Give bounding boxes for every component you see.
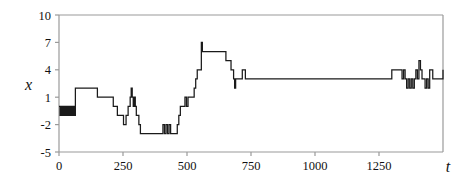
x-tick-label-1250: 1250: [367, 159, 392, 173]
series-line: [59, 42, 443, 133]
x-tick-label-750: 750: [242, 159, 261, 173]
x-tick-label-0: 0: [56, 159, 62, 173]
x-axis-ticks: [59, 152, 379, 156]
x-axis-title: t: [446, 158, 451, 175]
x-tick-label-500: 500: [178, 159, 197, 173]
y-tick-label-10: 10: [39, 9, 52, 23]
chart-figure: -5-214710 025050075010001250 x t: [0, 0, 461, 184]
y-tick-label--5: -5: [41, 146, 51, 160]
y-tick-label-7: 7: [45, 36, 51, 50]
step-line-chart: -5-214710 025050075010001250 x t: [0, 0, 461, 184]
y-tick-label--2: -2: [41, 118, 51, 132]
y-tick-label-1: 1: [45, 91, 51, 105]
x-tick-label-1000: 1000: [303, 159, 328, 173]
y-tick-label-4: 4: [45, 63, 52, 77]
y-axis-tick-labels: -5-214710: [39, 9, 52, 160]
x-tick-label-250: 250: [114, 159, 133, 173]
x-axis-tick-labels: 025050075010001250: [56, 159, 392, 173]
plot-frame: [59, 15, 443, 152]
y-axis-title: x: [24, 76, 32, 93]
